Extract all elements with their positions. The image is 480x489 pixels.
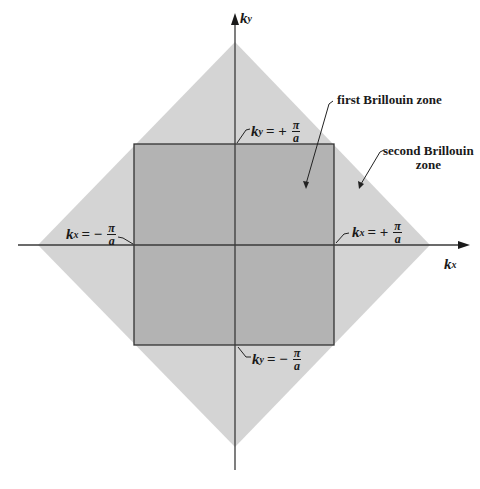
kx-axis-label: kx (444, 256, 457, 273)
ky-axis-label: ky (240, 10, 252, 27)
kx-plus-boundary-label: kx = + πa (352, 220, 402, 245)
kx-minus-boundary-label: kx = − πa (66, 222, 116, 247)
ky-plus-boundary-label: ky = + πa (251, 119, 300, 144)
first-zone-label: first Brillouin zone (337, 93, 442, 107)
ky-arrowhead-icon (231, 13, 239, 25)
kx-arrowhead-icon (458, 241, 470, 249)
second-zone-label: second Brillouin zone (383, 144, 474, 172)
leader-second-zone (361, 150, 384, 184)
ky-minus-boundary-label: ky = − πa (252, 347, 301, 372)
